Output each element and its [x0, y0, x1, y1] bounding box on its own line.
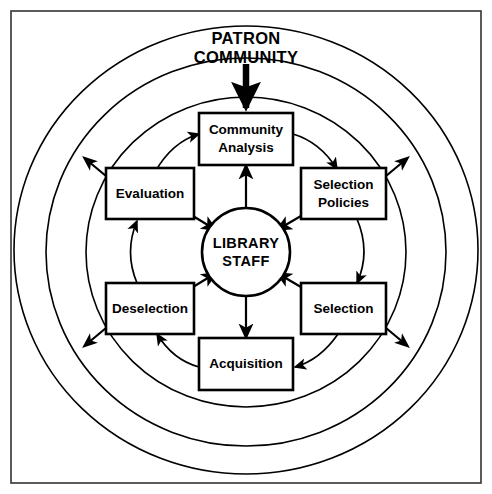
flow-acquisition-to-deselection — [157, 334, 199, 367]
collection-development-cycle-diagram: LIBRARY STAFF Community Analysis Selecti… — [0, 0, 492, 494]
flow-community-analysis-to-selection-policies — [293, 134, 337, 169]
node-community-analysis[interactable]: Community Analysis — [199, 113, 293, 165]
node-evaluation[interactable]: Evaluation — [106, 168, 194, 219]
library-staff-label-line1: LIBRARY — [213, 235, 280, 251]
library-staff-label-line2: STAFF — [222, 253, 270, 269]
patron-community-label-line2: COMMUNITY — [194, 48, 298, 66]
diagram-canvas: LIBRARY STAFF Community Analysis Selecti… — [0, 0, 492, 494]
community-analysis-label-line2: Analysis — [218, 140, 274, 155]
community-analysis-label-line1: Community — [209, 122, 284, 137]
acquisition-label: Acquisition — [209, 356, 283, 371]
node-acquisition[interactable]: Acquisition — [199, 338, 293, 390]
flow-evaluation-to-community-analysis — [155, 134, 199, 172]
flow-deselection-to-evaluation — [131, 221, 138, 283]
flow-selection-to-acquisition — [295, 334, 338, 367]
selection-label: Selection — [313, 301, 373, 316]
flow-selection-policies-to-selection — [357, 219, 364, 283]
patron-community-label-line1: PATRON — [211, 29, 280, 47]
evaluation-label: Evaluation — [116, 186, 184, 201]
node-selection[interactable]: Selection — [301, 283, 386, 334]
node-selection-policies[interactable]: Selection Policies — [301, 168, 386, 219]
selection-policies-label-line1: Selection — [313, 177, 373, 192]
selection-policies-label-line2: Policies — [318, 195, 369, 210]
node-deselection[interactable]: Deselection — [106, 283, 194, 334]
deselection-label: Deselection — [112, 301, 188, 316]
